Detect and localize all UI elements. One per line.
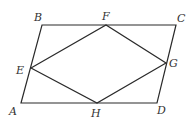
outer-parallelogram	[21, 25, 176, 103]
label-f: F	[101, 10, 110, 23]
label-e: E	[15, 64, 24, 77]
label-b: B	[33, 11, 42, 24]
inner-quadrilateral	[31, 25, 166, 103]
label-c: C	[177, 12, 186, 25]
geometry-diagram: A B C D E F G H	[0, 0, 194, 121]
label-g: G	[169, 57, 178, 70]
label-d: D	[156, 104, 166, 117]
label-a: A	[8, 105, 17, 118]
quadrilateral-efgh	[31, 25, 166, 103]
label-h: H	[90, 107, 101, 120]
parallelogram-abcd	[21, 25, 176, 103]
